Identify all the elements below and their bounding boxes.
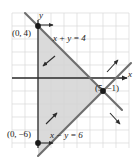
x-axis-label: x <box>128 70 132 79</box>
point-0-4 <box>35 23 41 29</box>
graph-figure: y x (0, 4) (0, −6) (5, −1) x + y = 4 x −… <box>0 0 138 158</box>
point-0-neg6 <box>35 140 41 146</box>
equation-label-x-plus-y: x + y = 4 <box>53 34 86 43</box>
point-label-5-neg1: (5, −1) <box>95 84 119 93</box>
equation-label-x-minus-y: x − y = 6 <box>50 131 83 140</box>
arrow-out-of-region-lower <box>110 113 120 124</box>
y-axis-label: y <box>39 11 43 20</box>
point-label-0-neg6: (0, −6) <box>7 130 31 139</box>
point-label-0-4: (0, 4) <box>12 29 31 38</box>
